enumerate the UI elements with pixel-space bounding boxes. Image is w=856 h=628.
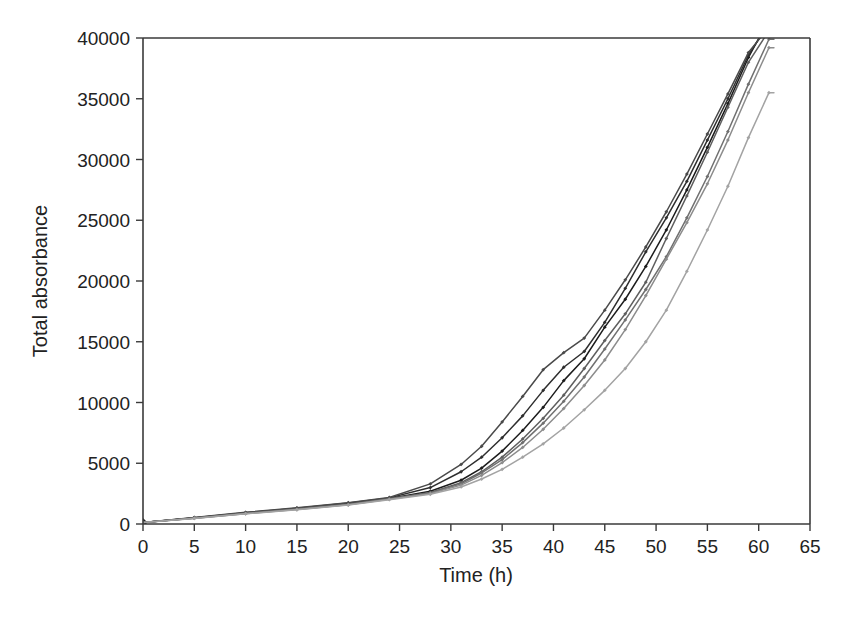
x-axis-title: Time (h) [439, 564, 513, 586]
y-tick-label: 40000 [77, 28, 130, 49]
x-tick-label: 65 [799, 536, 820, 557]
x-tick-label: 50 [646, 536, 667, 557]
x-tick-label: 0 [138, 536, 149, 557]
x-tick-label: 30 [440, 536, 461, 557]
x-tick-label: 40 [543, 536, 564, 557]
x-tick-label: 10 [235, 536, 256, 557]
y-tick-label: 20000 [77, 271, 130, 292]
y-tick-label: 35000 [77, 89, 130, 110]
y-tick-label: 10000 [77, 393, 130, 414]
y-tick-label: 15000 [77, 332, 130, 353]
y-tick-label: 0 [119, 514, 130, 535]
x-tick-label: 5 [189, 536, 200, 557]
x-tick-label: 25 [389, 536, 410, 557]
y-tick-label: 25000 [77, 210, 130, 231]
x-tick-label: 55 [697, 536, 718, 557]
line-chart: 0500010000150002000025000300003500040000… [0, 0, 856, 628]
x-tick-label: 45 [594, 536, 615, 557]
y-tick-label: 30000 [77, 150, 130, 171]
y-tick-label: 5000 [88, 453, 130, 474]
x-tick-label: 35 [492, 536, 513, 557]
chart-figure: 0500010000150002000025000300003500040000… [0, 0, 856, 628]
x-tick-label: 60 [748, 536, 769, 557]
y-axis-title: Total absorbance [29, 205, 51, 357]
x-tick-label: 20 [338, 536, 359, 557]
x-tick-label: 15 [286, 536, 307, 557]
